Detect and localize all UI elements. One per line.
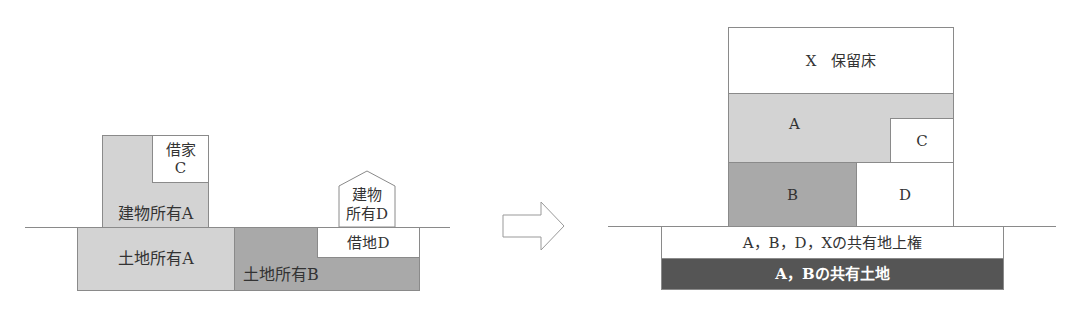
leasehold-d: 借地D xyxy=(317,227,420,258)
building-owner-d-label-1: 建物 xyxy=(338,186,396,205)
unit-c-label: C xyxy=(916,132,927,150)
building-owner-d-label-2: 所有D xyxy=(338,205,396,224)
leasehold-d-label: 借地D xyxy=(347,234,389,252)
unit-d: D xyxy=(856,162,954,227)
co-owned-superficies-label: A，B，D，Xの共有地上権 xyxy=(743,234,923,252)
land-owner-a: 土地所有A xyxy=(77,227,235,291)
unit-d-label: D xyxy=(899,186,911,204)
co-owned-land: A，Bの共有土地 xyxy=(661,258,1004,290)
unit-a-label: A xyxy=(789,115,800,133)
tenant-c-label-1: 借家 xyxy=(166,141,196,159)
reserved-floor-x: X 保留床 xyxy=(728,27,954,94)
unit-b-label: B xyxy=(787,186,798,204)
reserved-floor-x-label: X 保留床 xyxy=(806,52,877,70)
co-owned-land-label: A，Bの共有土地 xyxy=(775,265,889,283)
land-owner-b-label: 土地所有B xyxy=(243,265,319,284)
building-owner-d: 建物 所有D xyxy=(338,186,396,224)
land-owner-a-label: 土地所有A xyxy=(118,249,194,268)
tenant-c: 借家 C xyxy=(152,135,209,183)
right-arrow-icon xyxy=(502,201,566,253)
building-owner-a-label: 建物所有A xyxy=(118,204,194,223)
co-owned-superficies: A，B，D，Xの共有地上権 xyxy=(661,226,1004,259)
unit-b: B xyxy=(728,162,857,227)
unit-c: C xyxy=(890,118,954,163)
tenant-c-label-2: C xyxy=(175,159,186,177)
